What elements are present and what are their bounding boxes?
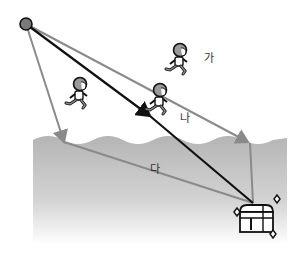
runner-na <box>146 84 167 115</box>
runner-da <box>66 78 87 109</box>
runner-ga <box>166 44 187 75</box>
label-na: 나 <box>180 113 190 124</box>
label-da: 다 <box>150 164 160 175</box>
label-ga: 가 <box>204 53 214 64</box>
diagram-canvas <box>0 0 306 256</box>
path-na-arrow <box>26 24 150 116</box>
start-point <box>20 18 32 30</box>
